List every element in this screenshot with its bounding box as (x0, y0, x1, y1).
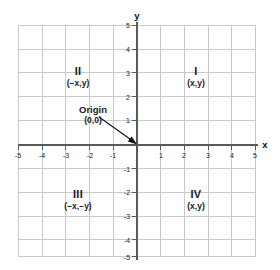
quadrant-2-coords: (−x,y) (67, 78, 89, 89)
y-tick-label-neg5: -5 (124, 254, 130, 261)
y-axis-label: y (134, 10, 139, 21)
x-tick-label-neg2: -2 (87, 152, 93, 159)
y-tick-label-neg4: -4 (124, 237, 130, 244)
x-tick-label-neg5: -5 (15, 152, 21, 159)
y-tick-label-pos2: 2 (126, 94, 130, 101)
quadrant-3-coords: (−x,−y) (64, 201, 91, 212)
x-tick-label-neg3: -3 (63, 152, 69, 159)
x-tick-label-neg4: -4 (39, 152, 45, 159)
x-tick-label-pos1: 1 (159, 152, 163, 159)
quadrant-4-roman: IV (187, 189, 204, 200)
origin-coords: (0,0) (79, 115, 107, 125)
x-axis-label: x (262, 139, 267, 150)
quadrant-1-roman: I (187, 66, 204, 77)
quadrant-3-label: III (−x,−y) (64, 189, 91, 212)
origin-title: Origin (79, 105, 107, 115)
y-tick-label-pos4: 4 (126, 46, 130, 53)
quadrant-1-label: I (x,y) (187, 66, 204, 89)
quadrant-2-label: II (−x,y) (67, 66, 89, 89)
y-tick-label-pos1: 1 (126, 117, 130, 124)
coordinate-plane-svg (0, 0, 280, 270)
quadrant-4-label: IV (x,y) (187, 189, 204, 212)
x-tick-label-neg1: -1 (110, 152, 116, 159)
x-tick-label-pos4: 4 (230, 152, 234, 159)
y-tick-label-neg3: -3 (124, 213, 130, 220)
quadrant-4-coords: (x,y) (187, 201, 204, 212)
x-tick-label-pos3: 3 (206, 152, 210, 159)
quadrant-2-roman: II (67, 66, 89, 77)
y-tick-label-neg1: -1 (124, 166, 130, 173)
x-tick-label-pos5: 5 (253, 152, 257, 159)
quadrant-1-coords: (x,y) (187, 78, 204, 89)
coordinate-plane-figure: II (−x,y) I (x,y) III (−x,−y) IV (x,y) O… (0, 0, 280, 270)
y-tick-label-neg2: -2 (124, 189, 130, 196)
y-tick-label-pos5: 5 (126, 22, 130, 29)
quadrant-3-roman: III (64, 189, 91, 200)
x-tick-label-pos2: 2 (182, 152, 186, 159)
origin-annotation: Origin (0,0) (79, 105, 107, 125)
y-tick-label-pos3: 3 (126, 70, 130, 77)
